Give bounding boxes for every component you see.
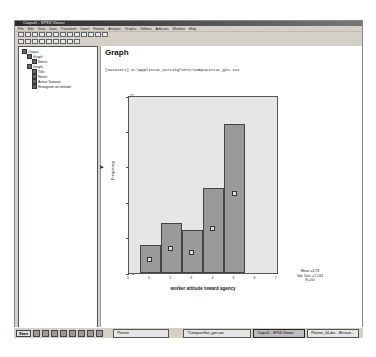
bar-marker-icon <box>168 246 173 251</box>
histogram-bar-3[interactable] <box>182 230 203 273</box>
page-title: Graph <box>105 48 129 57</box>
insert-text-icon[interactable] <box>67 39 73 44</box>
expand-icon[interactable] <box>32 39 38 44</box>
goto-case-icon[interactable] <box>74 32 80 37</box>
menu-help[interactable]: Help <box>189 27 196 31</box>
chart-icon <box>32 84 37 89</box>
x-tick: 6 <box>254 276 256 280</box>
menu-addons[interactable]: Add-ons <box>156 27 169 31</box>
open-icon[interactable] <box>18 32 24 37</box>
quicklaunch-icon[interactable] <box>33 330 40 337</box>
menu-format[interactable]: Format <box>93 27 104 31</box>
x-tick: 3 <box>190 276 192 280</box>
chart-stats: Mean =3.78 Std. Dev. =1.243 N =50 <box>297 269 323 283</box>
recall-dialog-icon[interactable] <box>53 32 59 37</box>
quicklaunch-icon[interactable] <box>96 330 103 337</box>
quicklaunch-icon[interactable] <box>78 330 85 337</box>
taskbar-button-dataset[interactable]: *CompassStat_gen.sav <box>183 329 251 338</box>
outline-pane: Output Graph Notes Graph Title Notes Act… <box>18 46 98 330</box>
bar-marker-icon <box>232 191 237 196</box>
bar-marker-icon <box>189 250 194 255</box>
plot-area <box>128 96 278 274</box>
menu-insert[interactable]: Insert <box>80 27 89 31</box>
y-tick-mark <box>126 238 129 239</box>
x-tick: 4 <box>211 276 213 280</box>
promote-icon[interactable] <box>18 39 24 44</box>
x-tick: 1 <box>148 276 150 280</box>
y-tick-mark <box>126 167 129 168</box>
windows-taskbar: Start Planner *CompassStat_gen.sav Outpu… <box>14 327 363 338</box>
insert-title-icon[interactable] <box>60 39 66 44</box>
designate-window-icon[interactable] <box>95 32 101 37</box>
y-axis-label: Frequency <box>110 161 115 180</box>
x-axis-label: worker attitude toward agency <box>128 286 278 291</box>
y-tick-mark <box>126 97 129 98</box>
histogram-bar-5[interactable] <box>224 124 245 274</box>
histogram-bar-2[interactable] <box>161 223 182 273</box>
y-tick-mark <box>126 132 129 133</box>
demote-icon[interactable] <box>25 39 31 44</box>
menu-utilities[interactable]: Utilities <box>140 27 151 31</box>
x-tick: 5 <box>233 276 235 280</box>
select-last-output-icon[interactable] <box>88 32 94 37</box>
quicklaunch-icon[interactable] <box>51 330 58 337</box>
start-button[interactable]: Start <box>16 330 31 337</box>
menu-data[interactable]: Data <box>49 27 56 31</box>
quicklaunch-icon[interactable] <box>60 330 67 337</box>
export-icon[interactable] <box>46 32 52 37</box>
selection-arrow-icon: ➤ <box>99 163 104 170</box>
content-pane: Graph [DataSet1] E:\AppliStat_Nursing\SP… <box>100 46 362 330</box>
menu-file[interactable]: File <box>18 27 24 31</box>
menu-graphs[interactable]: Graphs <box>125 27 136 31</box>
window-title: Output1 - SPSS Viewer <box>23 20 65 25</box>
menu-transform[interactable]: Transform <box>61 27 77 31</box>
menu-view[interactable]: View <box>38 27 46 31</box>
x-tick: 0 <box>127 276 129 280</box>
stat-mean: Mean =3.78 <box>297 269 323 274</box>
dataset-path: [DataSet1] E:\AppliStat_Nursing\SPSS\Com… <box>105 68 239 72</box>
y-tick-mark <box>126 274 129 275</box>
insert-text-file-icon[interactable] <box>74 39 80 44</box>
insert-heading-icon[interactable] <box>102 32 108 37</box>
spss-viewer-window: Output1 - SPSS Viewer File Edit View Dat… <box>14 20 363 338</box>
taskbar-button-planner[interactable]: Planner <box>113 329 169 338</box>
quicklaunch-icon[interactable] <box>42 330 49 337</box>
hide-icon[interactable] <box>53 39 59 44</box>
histogram-chart[interactable]: ➤ Frequency 0 5 10 15 20 25 <box>106 84 286 300</box>
tree-item-histogram[interactable]: Histogram on attitude <box>32 84 71 89</box>
histogram-bar-1[interactable] <box>140 245 161 274</box>
y-tick-mark <box>126 203 129 204</box>
goto-data-icon[interactable] <box>67 32 73 37</box>
menu-window[interactable]: Window <box>173 27 185 31</box>
stat-n: N =50 <box>297 278 323 283</box>
bar-marker-icon <box>147 257 152 262</box>
bar-marker-icon <box>210 226 215 231</box>
quicklaunch-icon[interactable] <box>69 330 76 337</box>
histogram-bar-4[interactable] <box>203 188 224 273</box>
x-tick: 7 <box>275 276 277 280</box>
menu-analyze[interactable]: Analyze <box>108 27 120 31</box>
taskbar-button-spss-viewer[interactable]: Output1 - SPSS Viewer <box>253 329 305 338</box>
outline-toolbar <box>18 39 80 45</box>
x-tick: 2 <box>169 276 171 280</box>
save-icon[interactable] <box>25 32 31 37</box>
undo-icon[interactable] <box>60 32 66 37</box>
main-toolbar <box>18 32 108 38</box>
menu-edit[interactable]: Edit <box>28 27 34 31</box>
quicklaunch-icon[interactable] <box>87 330 94 337</box>
collapse-icon[interactable] <box>39 39 45 44</box>
variables-icon[interactable] <box>81 32 87 37</box>
print-preview-icon[interactable] <box>39 32 45 37</box>
taskbar-button-word[interactable]: Planner_04.doc - Microso... <box>307 329 359 338</box>
print-icon[interactable] <box>32 32 38 37</box>
show-icon[interactable] <box>46 39 52 44</box>
